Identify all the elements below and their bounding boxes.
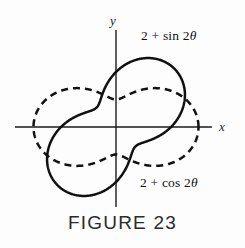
solid-curve-theta-symbol: θ <box>190 28 197 43</box>
solid-curve-label-text: 2 + sin 2 <box>141 28 190 43</box>
y-axis-label: y <box>110 14 116 27</box>
figure-23-container: y x 2 + sin 2θ 2 + cos 2θ FIGURE 23 <box>0 0 245 248</box>
solid-curve-label: 2 + sin 2θ <box>141 29 197 43</box>
dashed-curve-theta-symbol: θ <box>191 175 198 190</box>
polar-plot <box>0 0 245 248</box>
x-axis-label: x <box>219 120 225 133</box>
dashed-curve-label-text: 2 + cos 2 <box>140 175 191 190</box>
dashed-curve-label: 2 + cos 2θ <box>140 176 198 190</box>
figure-caption: FIGURE 23 <box>0 213 245 232</box>
